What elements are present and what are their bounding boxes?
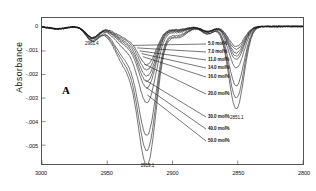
spectrum-trace: [42, 26, 303, 76]
series-label: 20.0 mol%: [208, 91, 230, 96]
x-tick-label: 2900: [166, 170, 178, 176]
y-tick-label: -.003: [14, 95, 38, 101]
peak-label: 2851.1: [230, 115, 243, 120]
series-label: 7.0 mol%: [208, 49, 227, 54]
ftir-spectrum-figure: Absorbance 0-.001-.002-.003-.004-.005 30…: [0, 0, 316, 191]
y-tick-label: -.004: [14, 119, 38, 125]
panel-letter: A: [62, 84, 70, 96]
spectrum-trace: [42, 26, 303, 82]
series-label: 14.0 mol%: [208, 65, 230, 70]
y-tick-label: -.001: [14, 47, 38, 53]
y-tick-label: 0: [14, 23, 38, 29]
y-axis-tick-labels: 0-.001-.002-.003-.004-.005: [14, 0, 38, 191]
series-label: 5.0 mol%: [208, 41, 227, 46]
spectrum-trace: [42, 26, 303, 135]
series-label: 40.0 mol%: [208, 126, 230, 131]
series-label: 50.0 mol%: [208, 138, 230, 143]
spectrum-trace: [42, 26, 303, 70]
x-tick-label: 3000: [35, 170, 47, 176]
x-tick-label: 2950: [101, 170, 113, 176]
x-axis-tick-labels: 30002950290028502800: [0, 170, 316, 182]
y-tick-label: -.002: [14, 71, 38, 77]
series-label: 16.0 mol%: [208, 74, 230, 79]
plot-area: [41, 17, 304, 165]
x-tick-label: 2850: [232, 170, 244, 176]
spectra-traces: [42, 18, 303, 164]
x-tick-label: 2800: [298, 170, 310, 176]
series-label: 11.0 mol%: [208, 57, 229, 62]
series-label: 30.0 mol%: [208, 114, 230, 119]
peak-label: 2961.4: [85, 41, 98, 46]
y-tick-label: -.005: [14, 143, 38, 149]
spectrum-trace: [42, 26, 303, 164]
spectrum-trace: [42, 26, 303, 151]
peak-label: 2919.1: [141, 163, 154, 168]
